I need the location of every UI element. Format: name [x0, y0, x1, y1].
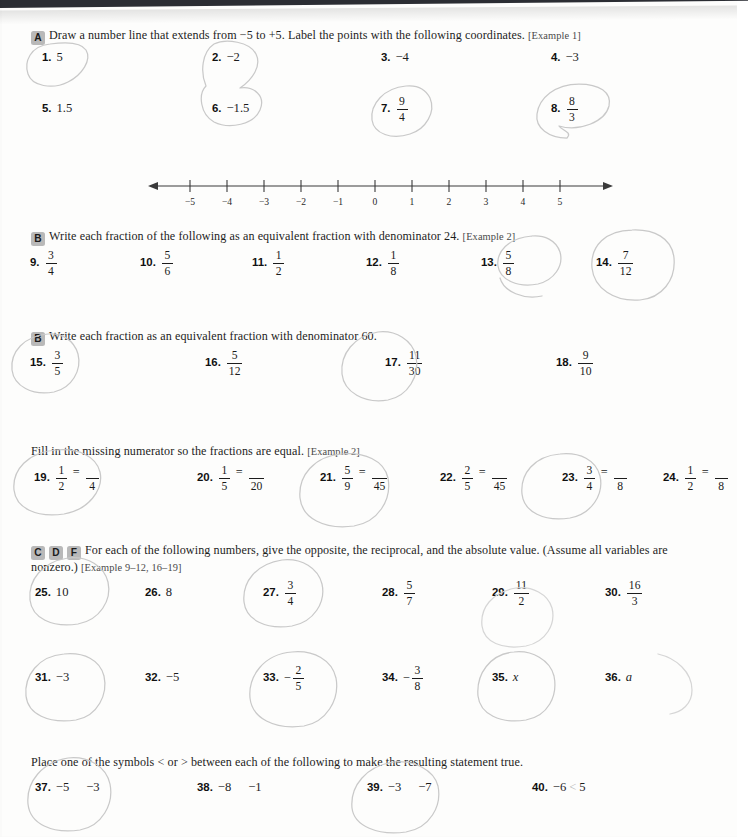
problem-35[interactable]: 35. x — [492, 670, 518, 685]
fraction-right[interactable]: 45 — [372, 465, 388, 492]
problem-25[interactable]: 25. 10 — [35, 585, 68, 600]
problem-38[interactable]: 38. −8 −1 — [197, 780, 262, 795]
pencil-circle-mark — [18, 40, 108, 92]
fraction-numerator: 8 — [567, 96, 577, 108]
problem-23[interactable]: 23. 3 4 = 8 — [562, 470, 628, 497]
fraction-numerator: 11 — [407, 350, 422, 362]
section-compare-instruction-text: Place one of the symbols < or > between … — [31, 755, 523, 769]
fraction-bar — [342, 478, 353, 479]
fraction-numerator-blank[interactable] — [373, 465, 386, 477]
problem-15[interactable]: 15. 3 5 — [30, 355, 64, 382]
problem-2[interactable]: 2. −2 — [212, 50, 240, 65]
problem-18[interactable]: 18. 9 10 — [556, 355, 594, 382]
problem-number: 24. — [663, 470, 679, 483]
fraction-right[interactable]: 4 — [86, 465, 99, 492]
fraction: 9 4 — [397, 96, 408, 123]
problem-value: 5 — [57, 50, 63, 65]
problem-1[interactable]: 1. 5 — [42, 50, 63, 65]
problem-21[interactable]: 21. 5 9 = 45 — [320, 470, 388, 497]
compare-symbol-handwritten[interactable]: < — [569, 780, 576, 795]
fraction-bar — [462, 478, 473, 479]
fraction: 3 4 — [46, 250, 57, 277]
problem-number: 1. — [42, 50, 52, 63]
problem-31[interactable]: 31. −3 — [35, 670, 69, 685]
section-badge-f: F — [67, 546, 81, 560]
problem-30[interactable]: 30. 16 3 — [605, 585, 643, 612]
fraction-bar — [584, 478, 595, 479]
number-line-axis — [148, 175, 613, 197]
problem-number: 36. — [605, 670, 621, 683]
problem-39[interactable]: 39. −3 −7 — [367, 780, 432, 795]
problem-6[interactable]: 6. −1.5 — [212, 101, 249, 116]
problem-28[interactable]: 28. 5 7 — [382, 585, 416, 612]
problem-29[interactable]: 29. 11 2 — [492, 585, 530, 612]
problem-16[interactable]: 16. 5 12 — [205, 355, 243, 382]
problem-number: 37. — [35, 780, 51, 793]
fraction-right[interactable]: 45 — [492, 465, 508, 492]
section-a-instruction: ADraw a number line that extends from −5… — [31, 28, 581, 45]
problem-4[interactable]: 4. −3 — [551, 50, 579, 65]
problem-24[interactable]: 24. 1 2 = 8 — [663, 470, 729, 497]
fraction-denominator: 7 — [404, 596, 414, 608]
section-b1-instruction: BWrite each fraction of the following as… — [31, 229, 515, 246]
problem-19[interactable]: 19. 1 2 = 4 — [34, 470, 100, 497]
fraction-denominator: 5 — [219, 481, 229, 493]
problem-value: −3 — [56, 670, 69, 685]
problem-value: −1.5 — [227, 101, 250, 116]
problem-number: 39. — [367, 780, 383, 793]
problem-number: 2. — [212, 50, 222, 63]
problem-13[interactable]: 13. 5 8 — [481, 255, 515, 282]
problem-27[interactable]: 27. 3 4 — [263, 585, 297, 612]
fraction-numerator: 1 — [274, 250, 284, 262]
problem-37[interactable]: 37. −5 −3 — [35, 780, 100, 795]
fraction-numerator-blank[interactable] — [715, 465, 728, 477]
fraction-bar — [285, 593, 296, 594]
fraction-right[interactable]: 20 — [249, 465, 265, 492]
problem-8[interactable]: 8. 8 3 — [551, 101, 579, 128]
section-b2-instruction-text: Write each fraction as an equivalent fra… — [49, 329, 377, 343]
problem-number: 5. — [42, 101, 52, 114]
problem-5[interactable]: 5. 1.5 — [42, 101, 72, 116]
problem-9[interactable]: 9. 3 4 — [30, 255, 58, 282]
fraction-denominator: 4 — [46, 266, 56, 278]
fraction-bar — [685, 478, 696, 479]
problem-number: 14. — [596, 255, 612, 268]
fraction-denominator: 30 — [407, 366, 423, 378]
fraction-bar — [503, 263, 514, 264]
problem-40[interactable]: 40. −6 < 5 — [532, 780, 586, 795]
tick-label: 5 — [558, 196, 563, 207]
fraction-numerator-blank[interactable] — [614, 465, 627, 477]
equals-sign: = — [702, 465, 709, 480]
fraction-denominator: 10 — [578, 366, 594, 378]
problem-36[interactable]: 36. a — [605, 670, 632, 685]
fraction-numerator-blank[interactable] — [86, 465, 99, 477]
problem-22[interactable]: 22. 2 5 = 45 — [440, 470, 508, 497]
problem-10[interactable]: 10. 5 6 — [140, 255, 174, 282]
section-b1-instruction-text: Write each fraction of the following as … — [49, 229, 459, 243]
problem-14[interactable]: 14. 7 12 — [596, 255, 634, 282]
section-fill-instruction-text: Fill in the missing numerator so the fra… — [31, 444, 304, 458]
problem-34[interactable]: 34. − 3 8 — [382, 670, 424, 697]
fraction-numerator: 9 — [397, 96, 407, 108]
fraction: 9 10 — [578, 350, 594, 377]
problem-32[interactable]: 32. −5 — [145, 670, 179, 685]
fraction-numerator-blank[interactable] — [493, 465, 506, 477]
problem-20[interactable]: 20. 1 5 = 20 — [197, 470, 265, 497]
problem-value: −4 — [396, 50, 409, 65]
problem-value: −5 — [166, 670, 179, 685]
fraction-right[interactable]: 8 — [715, 465, 728, 492]
problem-value: 1.5 — [57, 101, 73, 116]
fraction: 5 8 — [503, 250, 514, 277]
problem-26[interactable]: 26. 8 — [145, 585, 172, 600]
page-edge-shadow — [0, 5, 737, 24]
problem-3[interactable]: 3. −4 — [381, 50, 409, 65]
problem-12[interactable]: 12. 1 8 — [366, 255, 400, 282]
problem-11[interactable]: 11. 1 2 — [252, 255, 285, 282]
problem-number: 23. — [562, 470, 578, 483]
problem-33[interactable]: 33. − 2 5 — [263, 670, 305, 697]
fraction-right[interactable]: 8 — [614, 465, 627, 492]
fraction-numerator-blank[interactable] — [250, 465, 263, 477]
problem-number: 11. — [252, 255, 267, 268]
problem-17[interactable]: 17. 11 30 — [385, 355, 423, 382]
problem-7[interactable]: 7. 9 4 — [381, 101, 409, 128]
